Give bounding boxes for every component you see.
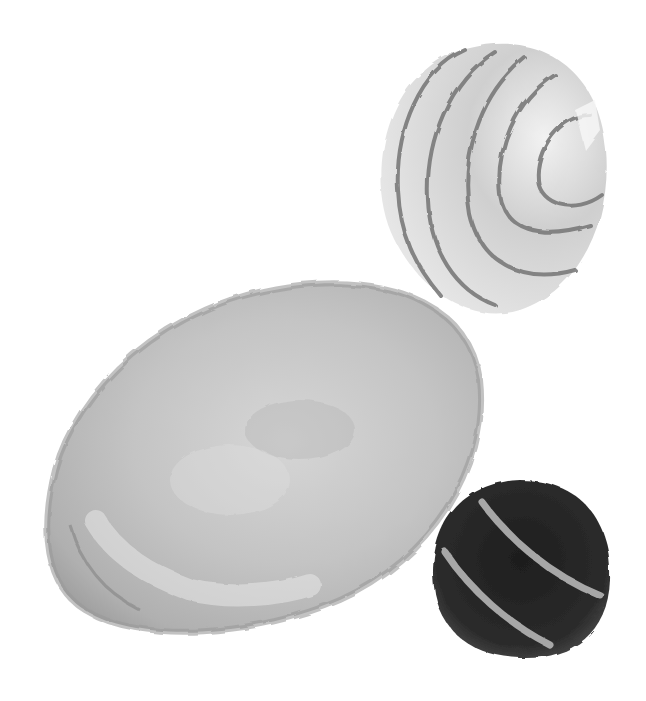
striped-cone-stone <box>381 44 606 314</box>
stones-illustration <box>0 0 646 701</box>
illustration-canvas <box>0 0 646 701</box>
large-oval-stone <box>47 283 481 631</box>
dark-round-stone <box>433 480 610 658</box>
